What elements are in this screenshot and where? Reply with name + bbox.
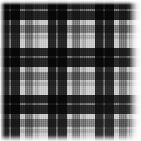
plaid-swatch-image: Grayscale plaid tartan fabric swatch: [0, 0, 141, 141]
weave-thread-texture: [0, 0, 141, 141]
